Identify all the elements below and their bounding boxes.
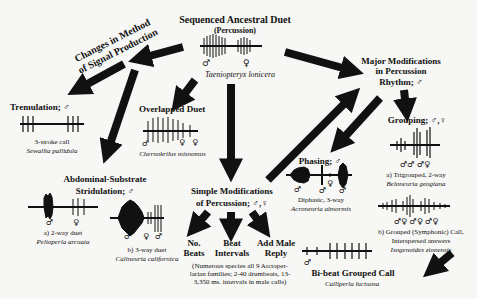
stridulation-title-line2: Stridulation; ♂	[60, 186, 150, 196]
overlapped-symbol-female-1: ♀	[179, 138, 185, 147]
simple-title-line1: Simple Modifications	[180, 186, 284, 196]
grouping-b-caption-line2: Interspersed answers	[378, 237, 464, 245]
simple-option-reply-line2: Reply	[252, 248, 300, 258]
grouping-a-symbols: ♂♂ ♂♀	[390, 160, 440, 169]
arrow-grouping-to-bibeat	[434, 253, 452, 268]
simple-option-reply-line1: Add Male	[252, 238, 300, 248]
phasing-symbol-female: ♀	[327, 179, 333, 188]
arrow-root-to-major	[285, 52, 350, 70]
tremulation-species: Sewallia pallidula	[14, 147, 90, 155]
phasing-symbol-male-2: ♂	[319, 186, 326, 195]
simple-note: (Numerous species all 9 Arctoper- larian…	[178, 262, 302, 286]
stridulation-a-waveform	[28, 193, 98, 219]
root-symbol-female: ♀	[243, 58, 250, 68]
phasing-symbol-male-3: ♂	[339, 186, 346, 195]
stridulation-a-symbol-female: ♀	[73, 218, 79, 227]
stridulation-b-symbol-male-1: ♂	[124, 232, 131, 241]
simple-option-intervals: Beat Intervals	[211, 238, 253, 259]
grouping-b-symbols: ♂♀ ♂♀ ♂♀	[380, 217, 452, 226]
phasing-title: Phasing; ♂	[290, 156, 350, 166]
arrow-root-to-signal	[142, 47, 183, 58]
tremulation-caption: 3-stroke call	[20, 138, 84, 146]
overlapped-title: Overlapped Duet	[138, 104, 206, 114]
stridulation-b-caption: b) 3-way duet	[112, 246, 182, 254]
stridulation-b-symbol-female: ♀	[143, 232, 149, 241]
simple-option-beats-line2: Beats	[176, 248, 212, 258]
bibeat-symbol-male: ♂	[304, 258, 311, 267]
grouping-a-species: Beloneuria geogiana	[378, 180, 454, 188]
arrow-major-to-grouping	[404, 90, 406, 108]
grouping-a-caption: a) Trigrouped, 2-way	[380, 171, 452, 179]
overlapped-symbol-male: ♂	[142, 139, 149, 148]
arrow-signal-to-stridulation	[108, 70, 135, 150]
simple-note-line3: 3,350 ms. intervals in male calls)	[178, 278, 302, 286]
grouping-b-waveform	[378, 195, 450, 217]
root-species: Taeniopteryx lonicera	[195, 70, 285, 79]
simple-option-beats: No. Beats	[176, 238, 212, 259]
stridulation-title-line1: Abdominal-Substrate	[50, 174, 160, 184]
phasing-species: Acroneuria abnormis	[282, 205, 360, 213]
grouping-b-species: Isogenoides zionensis	[378, 246, 464, 254]
root-subtitle: (Percussion)	[205, 26, 265, 35]
root-symbol-male: ♂	[202, 58, 210, 68]
stridulation-a-caption: a) 2-way duet	[28, 229, 98, 237]
stridulation-a-species: Peltoperla arcuata	[24, 238, 102, 246]
overlapped-symbol-female-2: ♀	[192, 138, 198, 147]
major-title-line2: in Percussion	[356, 66, 446, 76]
stridulation-b-waveform	[110, 200, 164, 236]
major-title-line1: Major Modifications	[356, 56, 446, 66]
overlapped-species: Chernokrilus misnomus	[130, 150, 215, 158]
major-title: Major Modifications in Percussion Rhythm…	[356, 56, 446, 87]
grouping-b-caption-line1: b) Grouped (Symphonic) Call,	[368, 228, 474, 236]
tremulation-waveform	[20, 116, 84, 132]
simple-note-line2: larian families; 2-40 drumbeats, 13-	[178, 270, 302, 278]
simple-title-line2: of Percussion; ♂,♀	[180, 198, 284, 208]
simple-option-reply: Add Male Reply	[252, 238, 300, 259]
arrow-simple-to-reply	[252, 212, 262, 226]
stridulation-b-symbol-male-2: ♂	[155, 232, 162, 241]
root-title: Sequenced Ancestral Duet	[170, 14, 300, 26]
root-waveform	[200, 34, 262, 58]
tremulation-title: Tremulation; ♂	[10, 102, 90, 112]
overlapped-waveform	[143, 117, 198, 143]
phasing-caption: Diphasic, 3-way	[288, 196, 354, 204]
simple-option-intervals-line2: Intervals	[211, 248, 253, 258]
arrow-root-to-overlapped	[180, 80, 195, 100]
bibeat-species: Calliperla luctuosa	[312, 280, 392, 288]
simple-option-beats-line1: No.	[176, 238, 212, 248]
arrow-simple-to-beats	[196, 212, 208, 226]
stridulation-a-symbol-male: ♂	[46, 218, 53, 227]
bibeat-title: Bi-beat Grouped Call	[298, 268, 408, 278]
simple-option-intervals-line1: Beat	[211, 238, 253, 248]
simple-note-line1: (Numerous species all 9 Arctoper-	[178, 262, 302, 270]
grouping-a-waveform	[390, 127, 440, 158]
grouping-title: Grouping; ♂,♀	[382, 115, 452, 125]
bibeat-waveform	[302, 243, 372, 259]
phasing-symbol-male-1: ♂	[294, 185, 301, 194]
major-title-line3: Rhythm; ♂	[356, 77, 446, 87]
